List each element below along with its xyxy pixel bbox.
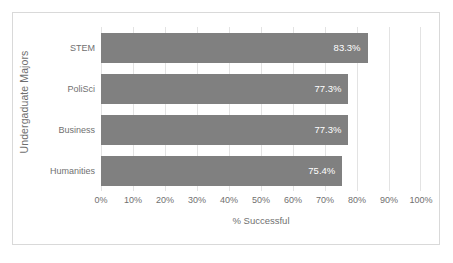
x-tick-label: 70% <box>316 195 334 205</box>
bar-value-label: 75.4% <box>308 165 335 176</box>
y-tick-label-business: Business <box>31 109 101 150</box>
x-tick-label: 30% <box>188 195 206 205</box>
y-axis-title-text: Undergaduate Majors <box>18 51 30 154</box>
plot-area: 83.3% 77.3% 77.3% 75.4% <box>101 27 421 191</box>
bar-polisci[interactable]: 77.3% <box>101 74 348 104</box>
x-tick-label: 80% <box>348 195 366 205</box>
bar-stem[interactable]: 83.3% <box>101 33 368 63</box>
y-tick-label-stem: STEM <box>31 27 101 68</box>
x-tick-label: 100% <box>409 195 432 205</box>
bar-humanities[interactable]: 75.4% <box>101 156 342 186</box>
bar-value-label: 77.3% <box>314 124 341 135</box>
x-tick-label: 10% <box>124 195 142 205</box>
y-tick-label-humanities: Humanities <box>31 150 101 191</box>
bar-value-label: 83.3% <box>334 42 361 53</box>
x-axis-title: % Successful <box>101 215 421 226</box>
bars-layer: 83.3% 77.3% 77.3% 75.4% <box>101 27 421 191</box>
bar-slot: 77.3% <box>101 68 421 109</box>
y-axis-tick-labels: STEM PoliSci Business Humanities <box>31 27 101 191</box>
bar-chart-figure: Undergaduate Majors STEM PoliSci Busines… <box>12 12 440 245</box>
x-axis-tick-labels: 0%10%20%30%40%50%60%70%80%90%100% <box>101 195 421 211</box>
x-tick-label: 40% <box>220 195 238 205</box>
x-tick-label: 60% <box>284 195 302 205</box>
bar-business[interactable]: 77.3% <box>101 115 348 145</box>
bar-value-label: 77.3% <box>314 83 341 94</box>
bar-slot: 83.3% <box>101 27 421 68</box>
bar-slot: 77.3% <box>101 109 421 150</box>
y-tick-label-polisci: PoliSci <box>31 68 101 109</box>
x-tick-label: 20% <box>156 195 174 205</box>
x-tick-label: 90% <box>380 195 398 205</box>
x-tick-label: 0% <box>94 195 107 205</box>
x-tick-label: 50% <box>252 195 270 205</box>
bar-slot: 75.4% <box>101 150 421 191</box>
